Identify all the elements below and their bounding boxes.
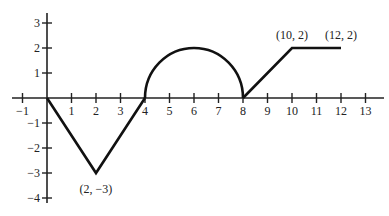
y-tick-label: −4 [27,191,40,205]
x-tick-label: 7 [216,104,222,118]
x-tick-label: 9 [265,104,271,118]
curve-segment [145,48,243,98]
x-tick-label: 3 [118,104,124,118]
x-tick-label: 6 [191,104,197,118]
x-tick-label: 10 [286,104,298,118]
x-ticks: −112345678910111213 [16,93,371,118]
y-tick-label: 3 [34,16,40,30]
y-ticks: 321−1−2−3−4 [27,16,52,205]
y-tick-label: 1 [34,66,40,80]
x-tick-label: 2 [93,104,99,118]
x-tick-label: 11 [311,104,323,118]
point-label: (12, 2) [325,28,357,42]
x-tick-label: 4 [142,104,148,118]
y-tick-label: 2 [34,41,40,55]
x-tick-label: 8 [240,104,246,118]
y-tick-label: −1 [27,116,40,130]
x-tick-label: 13 [360,104,372,118]
y-tick-label: −2 [27,141,40,155]
curve-segment [243,48,341,98]
x-tick-label: 5 [167,104,173,118]
x-tick-label: 12 [335,104,347,118]
function-graph: −112345678910111213 321−1−2−3−4 (2, −3)(… [0,0,389,216]
point-label: (10, 2) [276,28,308,42]
y-tick-label: −3 [27,166,40,180]
point-label: (2, −3) [80,182,113,196]
x-tick-label: 1 [69,104,75,118]
